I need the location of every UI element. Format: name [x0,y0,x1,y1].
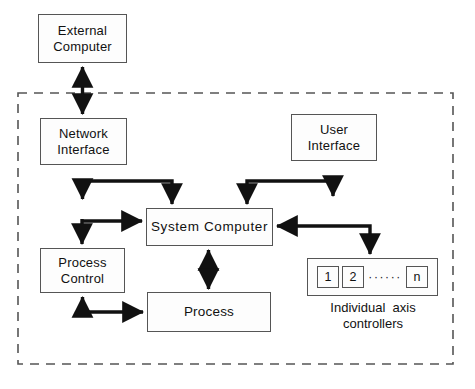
node-process-control[interactable]: Process Control [40,248,125,293]
axis-controllers-caption-line2: controllers [300,316,446,332]
connector-network-to-system [83,181,173,204]
connector-system-to-axis [277,226,370,254]
axis-controller-cell-n[interactable]: n [406,266,428,288]
axis-controller-cell-2[interactable]: 2 [342,266,364,288]
node-user-interface-label-line1: User [292,122,376,137]
axis-controllers-group[interactable]: 1 2 ······ n [307,258,438,296]
node-process-control-label-line1: Process [41,255,124,270]
node-user-interface[interactable]: User Interface [291,114,377,161]
node-external-computer[interactable]: External Computer [38,14,127,63]
node-user-interface-label-line2: Interface [292,138,376,153]
node-process[interactable]: Process [147,292,271,332]
connector-user-to-system [247,181,333,204]
node-process-control-label-line2: Control [41,271,124,286]
axis-controllers-ellipsis: ······ [367,270,403,284]
node-system-computer[interactable]: System Computer [146,208,273,246]
node-network-interface[interactable]: Network Interface [40,118,127,165]
node-system-computer-label: System Computer [151,219,268,235]
connector-process-control-to-process [83,297,144,312]
node-external-computer-label-line1: External [39,23,126,38]
node-network-interface-label-line1: Network [41,126,126,141]
axis-controller-cell-1[interactable]: 1 [317,266,339,288]
axis-controllers-caption-line1: Individual axis [300,300,446,316]
node-process-label: Process [184,304,234,320]
node-external-computer-label-line2: Computer [39,39,126,54]
axis-controllers-caption: Individual axis controllers [300,300,446,333]
node-network-interface-label-line2: Interface [41,142,126,157]
block-diagram: External Computer Network Interface User… [0,0,475,389]
